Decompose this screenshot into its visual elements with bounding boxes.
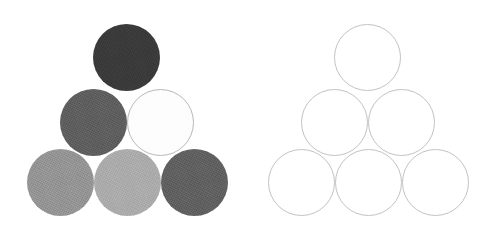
left-pyramid-filled-circle-bottom-left <box>27 149 94 216</box>
right-pyramid-outline-circle-middle-left <box>301 89 368 156</box>
left-pyramid-filled-circle-bottom-middle <box>94 149 161 216</box>
right-pyramid-outline-circle-top <box>334 24 401 91</box>
right-pyramid-outline-circle-bottom-left <box>268 149 335 216</box>
left-pyramid-filled-circle-bottom-right <box>161 149 228 216</box>
right-pyramid-outline-circle-bottom-middle <box>335 149 402 216</box>
left-pyramid-filled-circle-top <box>93 24 160 91</box>
right-pyramid-outline-circle-middle-right <box>368 89 435 156</box>
figure-canvas <box>0 0 501 236</box>
left-pyramid-filled-circle-middle-left <box>60 89 127 156</box>
right-pyramid-outline-circle-bottom-right <box>402 149 469 216</box>
left-pyramid-filled-circle-middle-right <box>127 89 194 156</box>
